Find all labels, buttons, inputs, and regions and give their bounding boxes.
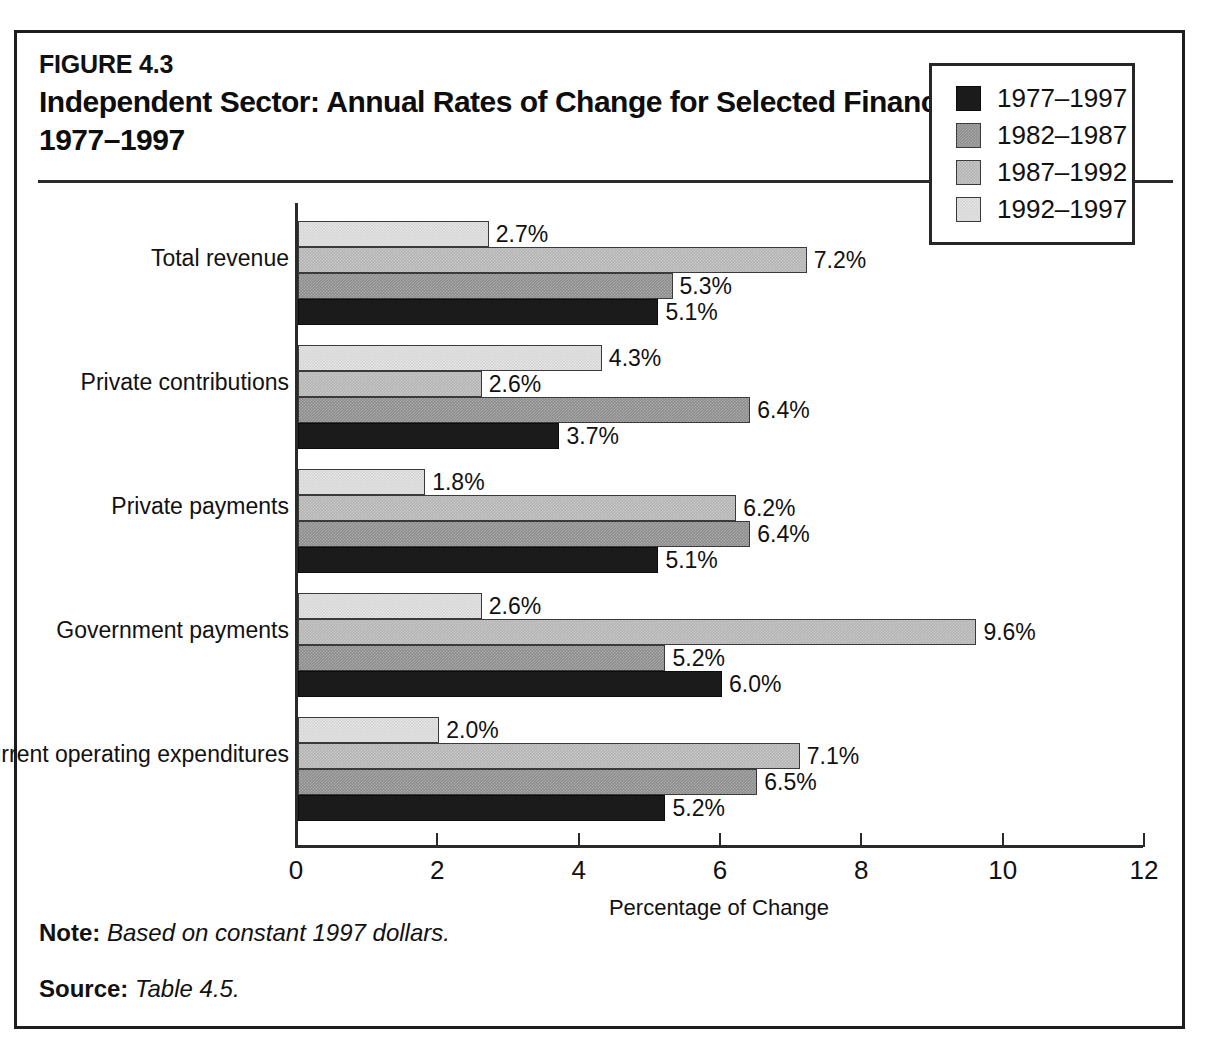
bar[interactable] <box>298 397 750 423</box>
bar[interactable] <box>298 521 750 547</box>
bar-row: 5.1% <box>298 299 818 325</box>
bar-value-label: 2.7% <box>489 221 548 248</box>
bar-value-label: 7.1% <box>800 743 859 770</box>
category-label: Government payments <box>0 616 289 645</box>
bar-group: Private payments1.8%6.2%6.4%5.1% <box>17 469 1182 573</box>
bar-row: 5.3% <box>298 273 833 299</box>
category-label: Private contributions <box>0 368 289 397</box>
bar-value-label: 5.1% <box>658 299 717 326</box>
bar-value-label: 2.6% <box>482 371 541 398</box>
figure-footer: Note: Based on constant 1997 dollars. So… <box>39 918 1139 1030</box>
bar-row: 6.4% <box>298 521 910 547</box>
bar[interactable] <box>298 221 489 247</box>
legend-swatch-icon <box>956 123 981 148</box>
bar-row: 2.7% <box>298 221 649 247</box>
x-tick-label: 8 <box>854 855 868 886</box>
bar[interactable] <box>298 469 425 495</box>
bar-value-label: 1.8% <box>425 469 484 496</box>
bar[interactable] <box>298 743 800 769</box>
legend-label: 1977–1997 <box>997 83 1127 114</box>
legend-item[interactable]: 1982–1987 <box>932 117 1132 154</box>
bar[interactable] <box>298 795 665 821</box>
bar[interactable] <box>298 299 658 325</box>
note-text: Based on constant 1997 dollars. <box>107 919 450 946</box>
note-label: Note: <box>39 919 100 946</box>
x-tick-mark <box>1143 833 1145 847</box>
x-tick-mark <box>436 833 438 847</box>
x-tick-mark <box>1002 833 1004 847</box>
bar-row: 7.2% <box>298 247 967 273</box>
x-tick-label: 4 <box>571 855 585 886</box>
bar-group: Private contributions4.3%2.6%6.4%3.7% <box>17 345 1182 449</box>
x-tick-mark <box>295 833 297 847</box>
bar[interactable] <box>298 345 602 371</box>
bar-row: 5.2% <box>298 645 825 671</box>
bar-row: 2.6% <box>298 371 642 397</box>
bar-value-label: 6.0% <box>722 671 781 698</box>
bar[interactable] <box>298 671 722 697</box>
x-tick-mark <box>578 833 580 847</box>
legend-item[interactable]: 1987–1992 <box>932 154 1132 191</box>
legend-label: 1992–1997 <box>997 194 1127 225</box>
bar-row: 6.5% <box>298 769 917 795</box>
bar[interactable] <box>298 273 673 299</box>
bar-value-label: 9.6% <box>976 619 1035 646</box>
source-label: Source: <box>39 975 128 1002</box>
bar-value-label: 5.2% <box>665 645 724 672</box>
bar-value-label: 4.3% <box>602 345 661 372</box>
chart-legend: 1977–19971982–19871987–19921992–1997 <box>929 63 1135 245</box>
x-tick-mark <box>860 833 862 847</box>
bar-value-label: 5.2% <box>665 795 724 822</box>
bar-group: Current operating expenditures2.0%7.1%6.… <box>17 717 1182 821</box>
bar-value-label: 6.2% <box>736 495 795 522</box>
x-tick-label: 6 <box>713 855 727 886</box>
bar-value-label: 5.3% <box>673 273 732 300</box>
bar-value-label: 6.5% <box>757 769 816 796</box>
bar-value-label: 7.2% <box>807 247 866 274</box>
bar-row: 6.4% <box>298 397 910 423</box>
legend-item[interactable]: 1992–1997 <box>932 191 1132 228</box>
x-tick-label: 10 <box>988 855 1017 886</box>
bar[interactable] <box>298 247 807 273</box>
legend-label: 1982–1987 <box>997 120 1127 151</box>
bar-value-label: 3.7% <box>559 423 618 450</box>
bar[interactable] <box>298 371 482 397</box>
figure-frame: FIGURE 4.3 Independent Sector: Annual Ra… <box>14 30 1185 1029</box>
bar-value-label: 6.4% <box>750 521 809 548</box>
bar-row: 5.2% <box>298 795 825 821</box>
bar-row: 6.2% <box>298 495 896 521</box>
source-line: Source: Table 4.5. <box>39 974 1139 1004</box>
bar-value-label: 2.0% <box>439 717 498 744</box>
bar-value-label: 6.4% <box>750 397 809 424</box>
bar-row: 2.0% <box>298 717 599 743</box>
category-label: Total revenue <box>0 244 289 273</box>
legend-item[interactable]: 1977–1997 <box>932 80 1132 117</box>
bar-row: 4.3% <box>298 345 762 371</box>
legend-label: 1987–1992 <box>997 157 1127 188</box>
bar[interactable] <box>298 769 757 795</box>
legend-swatch-icon <box>956 86 981 111</box>
bar-row: 6.0% <box>298 671 882 697</box>
bar[interactable] <box>298 619 976 645</box>
bar-row: 5.1% <box>298 547 818 573</box>
bar-row: 1.8% <box>298 469 585 495</box>
category-label: Current operating expenditures <box>0 740 289 769</box>
x-tick-label: 0 <box>289 855 303 886</box>
legend-swatch-icon <box>956 197 981 222</box>
x-tick-label: 2 <box>430 855 444 886</box>
bar-row: 7.1% <box>298 743 960 769</box>
bar[interactable] <box>298 593 482 619</box>
x-tick-label: 12 <box>1130 855 1159 886</box>
bar-value-label: 2.6% <box>482 593 541 620</box>
chart-plot-area: 024681012 Total revenue2.7%7.2%5.3%5.1%P… <box>17 203 1182 893</box>
bar[interactable] <box>298 645 665 671</box>
bar[interactable] <box>298 495 736 521</box>
bar[interactable] <box>298 423 559 449</box>
bar-row: 2.6% <box>298 593 642 619</box>
legend-swatch-icon <box>956 160 981 185</box>
bar[interactable] <box>298 547 658 573</box>
x-tick-mark <box>719 833 721 847</box>
bar[interactable] <box>298 717 439 743</box>
bar-row: 9.6% <box>298 619 1136 645</box>
note-line: Note: Based on constant 1997 dollars. <box>39 918 1139 948</box>
